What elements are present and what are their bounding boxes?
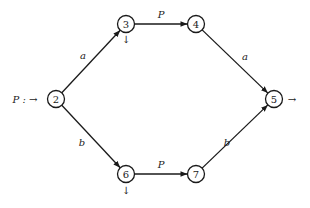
edge-line xyxy=(62,30,120,93)
down-arrow-icon: ↓ xyxy=(122,185,130,196)
down-arrow-icon: ↓ xyxy=(122,34,130,45)
edge-2-3: a xyxy=(62,30,120,93)
node-label: 7 xyxy=(193,169,199,180)
state-diagram: aPabPb 23↓45→6↓7 P : → xyxy=(0,0,310,208)
edge-label: b xyxy=(224,137,230,148)
edge-2-6: b xyxy=(62,105,120,168)
edge-label: P xyxy=(157,159,165,170)
edge-line xyxy=(202,30,268,93)
edge-line xyxy=(62,105,120,168)
edge-7-5: b xyxy=(202,105,268,168)
edge-label: b xyxy=(79,137,85,148)
edge-label: a xyxy=(80,50,86,61)
right-arrow-icon: → xyxy=(288,94,297,105)
edge-label: P xyxy=(157,9,165,20)
node-6: 6↓ xyxy=(118,166,135,196)
node-2: 2 xyxy=(48,91,65,108)
edge-line xyxy=(202,105,268,168)
edge-label: a xyxy=(242,51,248,62)
node-5: 5→ xyxy=(266,91,297,108)
node-3: 3↓ xyxy=(118,16,135,45)
edge-4-5: a xyxy=(202,30,268,93)
node-4: 4 xyxy=(188,16,205,33)
node-label: 3 xyxy=(123,19,129,30)
input-label: P : → xyxy=(12,94,38,105)
node-label: 6 xyxy=(123,169,129,180)
edge-6-7: P xyxy=(135,159,188,175)
node-7: 7 xyxy=(188,166,205,183)
node-label: 5 xyxy=(271,94,277,105)
node-label: 2 xyxy=(53,94,59,105)
edge-3-4: P xyxy=(135,9,188,25)
node-label: 4 xyxy=(193,19,199,30)
